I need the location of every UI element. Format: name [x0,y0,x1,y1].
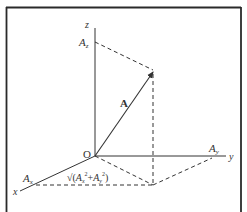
vector-a-arrow [95,72,153,156]
ay-label: Ay [208,142,220,156]
projection-magnitude-label: √(Ax2+Ay2) [67,171,108,184]
ax-label: Ax [22,172,34,186]
y-axis-label: y [228,151,234,162]
vector-components-diagram: z Az A O Ay y Ax x √(Ax2+Ay2) [0,0,247,212]
origin-label: O [83,148,91,160]
z-axis-label: z [84,19,89,30]
vector-a-label: A [120,97,128,109]
az-label: Az [78,36,89,50]
x-axis-label: x [12,186,18,197]
